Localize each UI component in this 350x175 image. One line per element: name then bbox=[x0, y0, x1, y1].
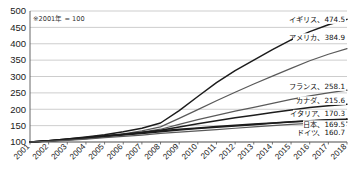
y-axis-tick-label: 400 bbox=[10, 38, 26, 49]
x-axis-tick-label: 2011 bbox=[199, 142, 218, 161]
series-end-label: カナダ、215.6 bbox=[296, 96, 345, 105]
x-axis-tick-label: 2016 bbox=[292, 142, 312, 162]
x-axis-tick-label: 2018 bbox=[329, 142, 349, 162]
x-axis-tick-label: 2014 bbox=[255, 142, 275, 162]
chart-canvas: 100150200250300350400450500 200120022003… bbox=[0, 0, 350, 175]
y-axis-tick-label: 300 bbox=[10, 71, 26, 82]
x-axis-tick-label: 2002 bbox=[31, 142, 51, 162]
x-axis-tick-label: 2007 bbox=[124, 142, 144, 162]
series-end-label: アメリカ、384.9 bbox=[289, 33, 345, 42]
y-axis-tick-label: 150 bbox=[10, 120, 26, 131]
x-axis-tick-label: 2008 bbox=[143, 142, 163, 162]
series-end-label: イギリス、474.5 bbox=[289, 15, 345, 24]
x-axis-tick-label: 2009 bbox=[161, 142, 181, 162]
x-axis-tick-label: 2004 bbox=[68, 142, 88, 162]
x-axis-tick-label: 2013 bbox=[236, 142, 256, 162]
series-end-label: イタリア、170.3 bbox=[290, 109, 345, 118]
y-axis-tick-label: 350 bbox=[10, 54, 26, 65]
y-axis-tick-label: 200 bbox=[10, 104, 26, 115]
x-axis-tick-label: 2017 bbox=[311, 142, 331, 162]
chart-note: ※2001年 = 100 bbox=[33, 14, 85, 23]
x-axis-tick-label: 2005 bbox=[87, 142, 107, 162]
y-axis-tick-label: 450 bbox=[10, 22, 26, 33]
y-axis-tick-label: 250 bbox=[10, 87, 26, 98]
series-end-labels: イギリス、474.5アメリカ、384.9フランス、258.1カナダ、215.6イ… bbox=[289, 15, 346, 137]
x-axis-tick-label: 2006 bbox=[105, 142, 125, 162]
x-axis-tick-label: 2015 bbox=[273, 142, 293, 162]
series-end-label: ドイツ、160.7 bbox=[297, 128, 345, 137]
y-axis-tick-label: 500 bbox=[10, 5, 26, 16]
x-axis-tick-label: 2012 bbox=[217, 142, 237, 162]
x-axis-tick-label: 2003 bbox=[49, 142, 69, 162]
line-chart: 100150200250300350400450500 200120022003… bbox=[0, 0, 350, 175]
series-end-label: フランス、258.1 bbox=[289, 82, 345, 91]
x-axis-tick-label: 2010 bbox=[180, 142, 200, 162]
x-axis-tick-labels: 2001200220032004200520062007200820092010… bbox=[12, 142, 349, 162]
y-axis-tick-labels: 100150200250300350400450500 bbox=[10, 5, 26, 147]
